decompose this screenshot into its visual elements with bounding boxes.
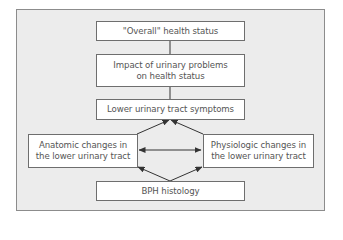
node-lower-urinary-tract-symptoms: Lower urinary tract symptoms xyxy=(96,99,245,120)
node-impact-urinary-problems: Impact of urinary problems on health sta… xyxy=(96,54,245,87)
node-anatomic-changes: Anatomic changes in the lower urinary tr… xyxy=(28,134,138,168)
node-overall-health-status: "Overall" health status xyxy=(96,21,245,41)
node-bph-histology: BPH histology xyxy=(96,181,245,201)
node-physiologic-changes: Physiologic changes in the lower urinary… xyxy=(203,134,314,168)
